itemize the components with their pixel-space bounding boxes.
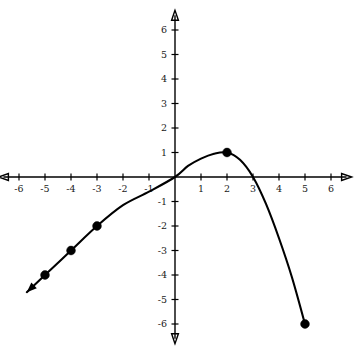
y-tick-label: -5	[158, 294, 167, 305]
x-tick-label: -6	[14, 183, 23, 194]
marked-point	[301, 320, 310, 329]
y-tick-label: 6	[161, 24, 167, 35]
marked-point	[223, 148, 232, 157]
x-tick-label: 1	[198, 183, 204, 194]
coordinate-plane-figure: -6-5-4-3-2-1123456 -6-5-4-3-2-1123456	[0, 0, 356, 364]
marked-point	[93, 222, 102, 231]
x-tick-label: -4	[66, 183, 75, 194]
x-tick-label: -5	[40, 183, 49, 194]
x-tick-label: 5	[302, 183, 308, 194]
y-tick-label: -6	[158, 318, 167, 329]
y-tick-label: -1	[158, 196, 167, 207]
y-tick-label: -4	[158, 269, 167, 280]
marked-point	[67, 246, 76, 255]
x-tick-label: -3	[92, 183, 101, 194]
y-tick-label: 2	[161, 122, 167, 133]
graph-canvas: -6-5-4-3-2-1123456 -6-5-4-3-2-1123456	[0, 0, 356, 364]
x-tick-label: 2	[224, 183, 230, 194]
y-tick-label: 3	[161, 98, 167, 109]
marked-point	[41, 271, 50, 280]
x-axis-tick-labels: -6-5-4-3-2-1123456	[14, 183, 334, 194]
y-tick-label: 1	[161, 147, 167, 158]
y-tick-label: 4	[161, 73, 167, 84]
x-tick-label: 4	[276, 183, 282, 194]
x-tick-label: -2	[118, 183, 127, 194]
x-tick-label: 3	[250, 183, 256, 194]
y-tick-label: 5	[161, 49, 167, 60]
y-tick-label: -3	[158, 245, 167, 256]
x-tick-label: 6	[328, 183, 334, 194]
y-tick-label: -2	[158, 220, 167, 231]
